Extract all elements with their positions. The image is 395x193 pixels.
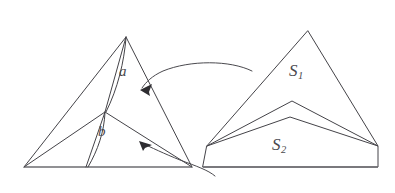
label-s1-base: S bbox=[289, 61, 298, 80]
lower-mapping-arrow bbox=[139, 141, 215, 176]
label-a: a bbox=[119, 64, 127, 79]
s1-outline bbox=[207, 31, 378, 146]
lower-mapping-arrow-head bbox=[139, 141, 152, 151]
right-triangle-group bbox=[203, 31, 378, 167]
s2-outline bbox=[203, 117, 378, 167]
geometry-canvas bbox=[0, 0, 395, 193]
label-s1-subscript: 1 bbox=[298, 70, 304, 81]
left-triangle-cevian-apex bbox=[86, 37, 126, 167]
label-s1: S1 bbox=[289, 62, 303, 81]
left-triangle-segment-b bbox=[88, 113, 105, 167]
left-triangle-group bbox=[24, 37, 192, 167]
upper-mapping-arrow-head bbox=[140, 84, 152, 96]
label-s2-subscript: 2 bbox=[281, 144, 287, 155]
left-triangle-inner-right bbox=[105, 112, 192, 167]
label-s2: S2 bbox=[272, 136, 286, 155]
figure-root: a b S1 S2 bbox=[0, 0, 395, 193]
label-s2-base: S bbox=[272, 135, 281, 154]
upper-mapping-arrow-curve bbox=[142, 63, 252, 88]
left-triangle-right-edge bbox=[126, 37, 192, 167]
upper-mapping-arrow bbox=[140, 63, 252, 96]
label-b: b bbox=[98, 124, 106, 139]
